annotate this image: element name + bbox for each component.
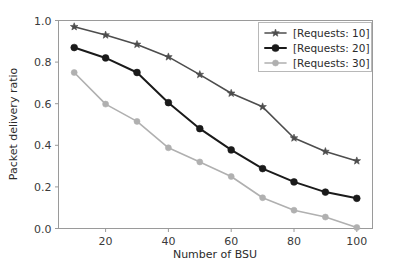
y-tick-label: 0.8 <box>34 56 52 69</box>
data-point-marker <box>228 146 235 153</box>
y-tick-label: 0.6 <box>34 98 52 111</box>
data-point-marker <box>133 40 141 47</box>
y-axis-title: Packet delivery ratio <box>7 67 20 180</box>
chart-figure: 0.00.20.40.60.81.0 20406080100 Number of… <box>0 0 394 269</box>
data-point-marker <box>228 174 234 180</box>
x-tick-layer: 20406080100 <box>99 229 368 248</box>
x-tick-label: 80 <box>287 235 301 248</box>
y-tick-label: 0.0 <box>34 223 52 236</box>
data-point-marker <box>291 207 297 213</box>
x-tick-label: 60 <box>224 235 238 248</box>
x-axis-title: Number of BSU <box>173 248 257 261</box>
data-point-marker <box>353 195 360 202</box>
y-tick-label: 0.4 <box>34 139 52 152</box>
data-point-marker <box>71 70 77 76</box>
data-point-marker <box>102 55 109 62</box>
data-point-marker <box>196 125 203 132</box>
y-tick-layer: 0.00.20.40.60.81.0 <box>34 15 59 236</box>
data-point-marker <box>322 189 329 196</box>
chart-legend: [Requests: 10][Requests: 20][Requests: 3… <box>259 23 372 72</box>
data-point-marker <box>322 214 328 220</box>
data-series <box>71 70 360 231</box>
data-point-marker <box>165 145 171 151</box>
data-point-marker <box>103 101 109 107</box>
data-point-marker <box>134 69 141 76</box>
legend-entry-label: [Requests: 10] <box>293 27 370 39</box>
data-point-marker <box>354 224 360 230</box>
line-chart-canvas: 0.00.20.40.60.81.0 20406080100 Number of… <box>0 0 394 269</box>
y-tick-label: 1.0 <box>34 15 52 28</box>
data-point-marker <box>260 195 266 201</box>
x-tick-label: 40 <box>161 235 175 248</box>
data-point-marker <box>322 148 330 155</box>
data-point-marker <box>102 31 110 38</box>
series-line <box>74 73 357 228</box>
data-point-marker <box>165 99 172 106</box>
legend-entry-label: [Requests: 20] <box>293 42 370 54</box>
data-point-marker <box>259 165 266 172</box>
y-tick-label: 0.2 <box>34 181 52 194</box>
data-point-marker <box>134 118 140 124</box>
data-point-marker <box>291 179 298 186</box>
legend-marker <box>272 44 279 51</box>
x-tick-label: 20 <box>99 235 113 248</box>
x-tick-label: 100 <box>346 235 367 248</box>
data-point-marker <box>353 157 361 164</box>
legend-marker <box>273 60 279 66</box>
data-point-marker <box>197 159 203 165</box>
data-point-marker <box>70 23 78 30</box>
data-point-marker <box>227 89 235 96</box>
data-point-marker <box>71 44 78 51</box>
legend-entry-label: [Requests: 30] <box>293 57 370 69</box>
